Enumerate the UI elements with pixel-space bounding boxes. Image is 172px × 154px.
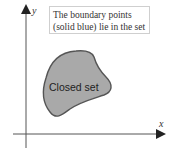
- annotation-line-2: (solid blue) lie in the set: [53, 21, 146, 33]
- annotation-box: The boundary points (solid blue) lie in …: [49, 6, 150, 34]
- closed-set-label: Closed set: [49, 81, 99, 93]
- y-axis-arrow-icon: [21, 4, 31, 14]
- y-axis: [21, 4, 31, 148]
- y-axis-label: y: [31, 5, 37, 16]
- x-axis: [13, 129, 166, 139]
- annotation-line-1: The boundary points: [53, 9, 146, 21]
- x-axis-label: x: [158, 118, 164, 129]
- x-axis-arrow-icon: [156, 129, 166, 139]
